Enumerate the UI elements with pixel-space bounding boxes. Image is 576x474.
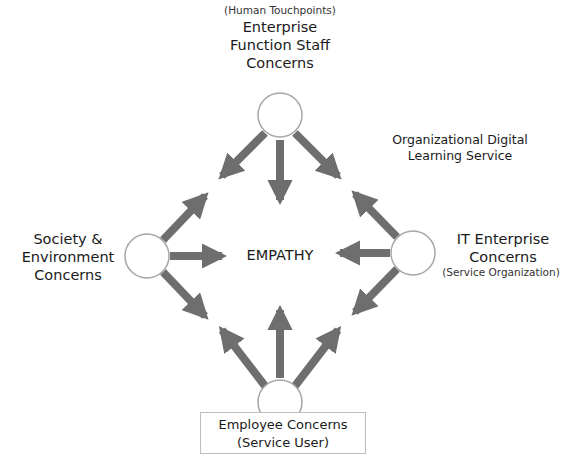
arrow-top-to-left (222, 133, 265, 176)
top-node-line-1: Enterprise (180, 18, 380, 36)
arrow-bottom-to-right (295, 330, 338, 386)
center-label: EMPATHY (220, 246, 340, 264)
arrow-bottom-to-left (222, 330, 265, 386)
empathy-diagram: (Human Touchpoints) Enterprise Function … (0, 0, 576, 474)
left-node-line-1: Society & (8, 230, 128, 248)
bottom-node-label-box: Employee Concerns (Service User) (200, 412, 366, 454)
bottom-node-line-2: (Service User) (201, 434, 365, 452)
arrow-right-to-bottom (355, 269, 397, 312)
right-node-line-1: IT Enterprise (430, 230, 576, 248)
left-node-label: Society & Environment Concerns (8, 230, 128, 284)
top-node-line-2: Function Staff (180, 36, 380, 54)
left-node-line-2: Environment (8, 248, 128, 266)
arrow-left-to-top (163, 196, 205, 240)
left-node-line-3: Concerns (8, 266, 128, 284)
right-node-subtitle: (Service Organization) (426, 266, 576, 279)
right-node-label: IT Enterprise Concerns (430, 230, 576, 266)
node-left-circle (125, 234, 169, 278)
arrow-top-to-right (295, 133, 338, 176)
arrow-right-to-top (355, 194, 397, 237)
bottom-node-line-1: Employee Concerns (201, 416, 365, 434)
service-annotation: Organizational Digital Learning Service (370, 132, 550, 163)
right-node-line-2: Concerns (430, 248, 576, 266)
annotation-line-1: Organizational Digital (370, 132, 550, 148)
top-node-subtitle: (Human Touchpoints) (180, 4, 380, 17)
top-node-label: Enterprise Function Staff Concerns (180, 18, 380, 72)
node-top-circle (258, 93, 302, 137)
top-node-line-3: Concerns (180, 54, 380, 72)
arrow-left-to-bottom (163, 272, 205, 316)
annotation-line-2: Learning Service (370, 148, 550, 164)
